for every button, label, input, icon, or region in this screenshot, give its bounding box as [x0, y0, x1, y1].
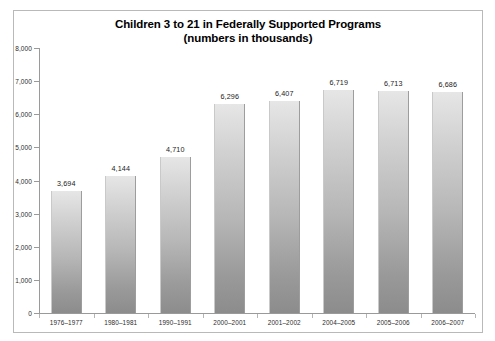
bar-column: 6,296 [214, 104, 245, 313]
bar [105, 176, 136, 313]
y-axis-tick-mark [34, 247, 39, 248]
x-axis-tick-label: 1980–1981 [104, 319, 137, 326]
x-axis-tick-mark [148, 314, 149, 318]
x-axis-tick-mark [94, 314, 95, 318]
bar [160, 157, 191, 313]
bar-column: 4,144 [105, 176, 136, 313]
bar [378, 91, 409, 313]
y-axis-tick-mark [34, 114, 39, 115]
bar-column: 6,407 [269, 101, 300, 313]
bar-value-label: 6,407 [275, 89, 294, 98]
chart-frame: Children 3 to 21 in Federally Supported … [13, 10, 483, 333]
x-axis-tick-label: 2000–2001 [213, 319, 246, 326]
x-axis-tick-label: 2004–2005 [322, 319, 355, 326]
x-axis-tick-mark [203, 314, 204, 318]
x-axis-tick-label: 1990–1991 [159, 319, 192, 326]
bar-value-label: 4,144 [112, 164, 131, 173]
bar [432, 92, 463, 313]
y-axis-tick-label: 0 [28, 310, 32, 317]
x-axis-tick-label: 1976–1977 [50, 319, 83, 326]
bar-value-label: 6,296 [221, 92, 240, 101]
y-axis-tick-label: 2,000 [15, 243, 32, 250]
y-axis-tick-mark [34, 48, 39, 49]
chart-title: Children 3 to 21 in Federally Supported … [14, 17, 482, 45]
x-axis-tick-mark [39, 314, 40, 318]
bar [323, 90, 354, 313]
x-axis-tick-mark [257, 314, 258, 318]
bar-column: 3,694 [51, 191, 82, 313]
bar-value-label: 6,713 [384, 79, 403, 88]
y-axis-tick-label: 4,000 [15, 177, 32, 184]
x-axis-tick-label: 2001–2002 [268, 319, 301, 326]
y-axis-tick-mark [34, 214, 39, 215]
x-axis-tick-mark [312, 314, 313, 318]
bar-column: 6,713 [378, 91, 409, 313]
x-axis-tick-label: 2005–2006 [377, 319, 410, 326]
y-axis-tick-label: 3,000 [15, 210, 32, 217]
y-axis-tick-label: 5,000 [15, 144, 32, 151]
bar-column: 6,719 [323, 90, 354, 313]
x-axis-tick-label: 2006–2007 [431, 319, 464, 326]
x-axis-tick-mark [421, 314, 422, 318]
bar [214, 104, 245, 313]
y-axis-tick-mark [34, 280, 39, 281]
y-axis-tick-label: 1,000 [15, 276, 32, 283]
bar-value-label: 4,710 [166, 145, 185, 154]
x-axis-tick-mark [475, 314, 476, 318]
y-axis-tick-mark [34, 147, 39, 148]
y-axis-tick-label: 7,000 [15, 78, 32, 85]
bar-column: 4,710 [160, 157, 191, 313]
y-axis-line [39, 48, 40, 314]
bar-value-label: 3,694 [57, 179, 76, 188]
y-axis-tick-mark [34, 81, 39, 82]
bar-value-label: 6,719 [330, 78, 349, 87]
chart-title-line1: Children 3 to 21 in Federally Supported … [115, 18, 381, 30]
bar [269, 101, 300, 313]
bar-value-label: 6,686 [439, 80, 458, 89]
x-axis-tick-mark [366, 314, 367, 318]
bar-column: 6,686 [432, 92, 463, 313]
bar [51, 191, 82, 313]
y-axis-tick-label: 8,000 [15, 45, 32, 52]
chart-subtitle: (numbers in thousands) [14, 31, 482, 45]
y-axis-tick-mark [34, 181, 39, 182]
y-axis-tick-label: 6,000 [15, 111, 32, 118]
plot-area: 01,0002,0003,0004,0005,0006,0007,0008,00… [39, 48, 475, 314]
